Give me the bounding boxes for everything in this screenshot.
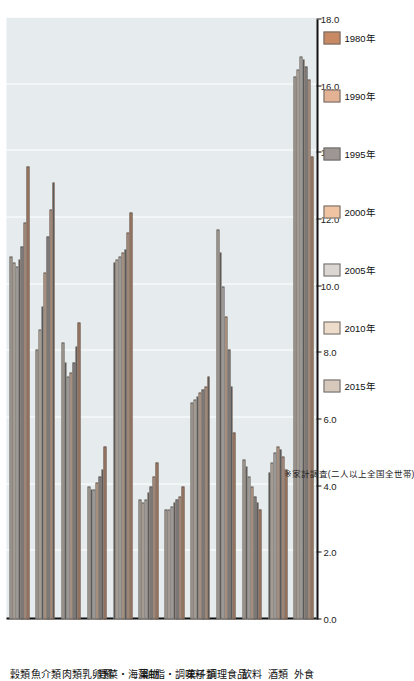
legend-swatch-3 <box>323 205 340 218</box>
gridline <box>6 83 316 84</box>
legend-label-4: 2005年 <box>344 262 375 276</box>
legend-label-3: 2000年 <box>344 204 375 218</box>
legend-swatch-6 <box>323 379 340 392</box>
legend-item-3[interactable]: 2000年 <box>321 200 377 222</box>
legend-item-0[interactable]: 1980年 <box>321 26 377 48</box>
legend-swatch-1 <box>323 89 340 102</box>
category-label-11: 外食 <box>264 666 344 681</box>
bar <box>138 499 141 619</box>
source-note-text: ※家計調査(二人以上全国全世帯) <box>284 466 414 478</box>
bar <box>87 486 90 619</box>
bar <box>293 76 296 619</box>
legend-label-6: 2015年 <box>344 378 375 392</box>
legend-item-1[interactable]: 1990年 <box>321 84 377 106</box>
legend-swatch-5 <box>323 321 340 334</box>
legend-label-1: 1990年 <box>344 88 375 102</box>
bar <box>268 472 271 619</box>
bar <box>164 509 167 619</box>
legend-swatch-4 <box>323 263 340 276</box>
bar <box>242 459 245 619</box>
bar <box>216 229 219 619</box>
legend-swatch-2 <box>323 147 340 160</box>
legend-swatch-0 <box>323 31 340 44</box>
gridline <box>6 149 316 150</box>
legend-item-4[interactable]: 2005年 <box>321 258 377 280</box>
gridline <box>6 16 316 17</box>
chart-legend: 1980年1990年1995年2000年2005年2010年2015年 <box>336 19 362 619</box>
plot-area-wrapper: 0.02.04.06.08.010.012.014.016.018.0 穀類魚介… <box>6 0 318 649</box>
bar <box>190 402 193 619</box>
bar <box>9 256 12 619</box>
bar <box>113 262 116 619</box>
x-axis-line <box>316 19 318 619</box>
bar <box>35 349 38 619</box>
bar <box>61 342 64 619</box>
legend-label-2: 1995年 <box>344 146 375 160</box>
legend-item-5[interactable]: 2010年 <box>321 316 377 338</box>
legend-item-2[interactable]: 1995年 <box>321 142 377 164</box>
legend-label-5: 2010年 <box>344 320 375 334</box>
legend-item-6[interactable]: 2015年 <box>321 374 377 396</box>
legend-label-0: 1980年 <box>344 30 375 44</box>
source-note: ※家計調査(二人以上全国全世帯) <box>284 459 414 485</box>
